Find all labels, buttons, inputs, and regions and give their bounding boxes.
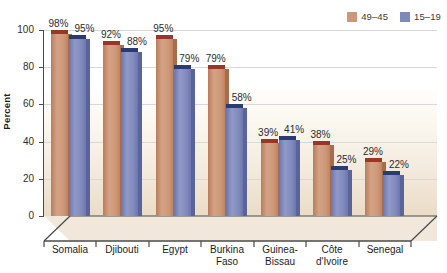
bar-djibouti-series-2 (121, 52, 138, 216)
bar-side-face (138, 52, 142, 216)
bar-value-label: 38% (310, 129, 330, 140)
bar-side-face (243, 108, 247, 216)
bar-senegal-series-1 (365, 162, 382, 216)
bar-top-cap (279, 136, 296, 140)
bar-burkina-faso-series-1 (208, 69, 225, 216)
bar-value-label: 98% (48, 18, 68, 29)
x-axis-label-senegal: Senegal (350, 244, 420, 256)
bar-top-cap (174, 65, 191, 69)
bar-face (279, 140, 296, 216)
bar-value-label: 29% (363, 146, 383, 157)
bar-top-cap (103, 41, 120, 45)
bar-top-cap (313, 141, 330, 145)
bar-face (313, 145, 330, 216)
bar-side-face (191, 69, 195, 216)
bar-face (103, 45, 120, 216)
bar-somalia-series-1 (51, 34, 68, 216)
bar-top-cap (226, 104, 243, 108)
bar-value-label: 95% (74, 23, 94, 34)
bar-top-cap (208, 65, 225, 69)
bar-top-cap (121, 48, 138, 52)
bar-face (174, 69, 191, 216)
bar-face (383, 175, 400, 216)
bar-top-cap (156, 35, 173, 39)
bar-face (365, 162, 382, 216)
bar-face (226, 108, 243, 216)
bar-side-face (296, 140, 300, 216)
bar-face (208, 69, 225, 216)
bars-layer: 98%95%92%88%95%79%79%58%39%41%38%25%29%2… (0, 0, 447, 273)
bar-top-cap (383, 171, 400, 175)
bar-top-cap (261, 139, 278, 143)
bar-top-cap (365, 158, 382, 162)
bar-side-face (400, 175, 404, 216)
bar-face (121, 52, 138, 216)
bar-côte-d'ivoire-series-1 (313, 145, 330, 216)
bar-value-label: 41% (284, 124, 304, 135)
bar-side-face (348, 170, 352, 217)
bar-chart: 49–45 15–19 Percent 100 80 60 40 20 0 (0, 0, 447, 273)
bar-djibouti-series-1 (103, 45, 120, 216)
bar-side-face (86, 39, 90, 216)
bar-egypt-series-1 (156, 39, 173, 216)
bar-value-label: 95% (153, 23, 173, 34)
bar-face (331, 170, 348, 217)
bar-value-label: 88% (127, 36, 147, 47)
bar-face (261, 143, 278, 216)
bar-value-label: 22% (389, 159, 409, 170)
bar-face (69, 39, 86, 216)
bar-côte-d'ivoire-series-2 (331, 170, 348, 217)
bar-burkina-faso-series-2 (226, 108, 243, 216)
bar-guinea--bissau-series-1 (261, 143, 278, 216)
bar-value-label: 39% (258, 127, 278, 138)
bar-face (51, 34, 68, 216)
bar-top-cap (69, 35, 86, 39)
bar-somalia-series-2 (69, 39, 86, 216)
bar-top-cap (51, 30, 68, 34)
bar-value-label: 25% (336, 154, 356, 165)
bar-value-label: 79% (179, 53, 199, 64)
bar-senegal-series-2 (383, 175, 400, 216)
bar-value-label: 58% (232, 92, 252, 103)
bar-face (156, 39, 173, 216)
bar-top-cap (331, 166, 348, 170)
bar-guinea--bissau-series-2 (279, 140, 296, 216)
bar-value-label: 92% (101, 29, 121, 40)
bar-value-label: 79% (206, 53, 226, 64)
bar-egypt-series-2 (174, 69, 191, 216)
